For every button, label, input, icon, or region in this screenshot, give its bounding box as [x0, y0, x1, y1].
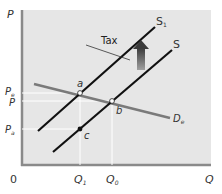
quantity-label-q0: Q0 — [106, 173, 119, 186]
point-a-label: a — [77, 78, 83, 89]
q0-main: Q — [106, 173, 115, 186]
point-c-label: c — [84, 130, 90, 141]
q1-sub: 1 — [83, 179, 87, 186]
point-c — [78, 127, 83, 132]
de-sub: e — [181, 118, 185, 125]
quantity-label-q1: Q1 — [74, 173, 87, 186]
s1-main: S — [156, 15, 163, 28]
x-axis-label: Q — [205, 173, 214, 186]
pa-sub: a — [11, 129, 15, 136]
price-label-p: P — [9, 97, 16, 108]
point-b-label: b — [116, 105, 122, 116]
supply-label: S — [173, 38, 180, 51]
s1-sub: 1 — [163, 21, 167, 28]
tax-diagram: P Q 0 Pe P Pa Q1 Q0 S1 S De a b c Tax — [0, 0, 222, 194]
origin-label: 0 — [10, 173, 17, 186]
price-label-pa: Pa — [5, 124, 15, 136]
y-axis-label: P — [7, 8, 14, 21]
q1-main: Q — [74, 173, 83, 186]
point-b — [110, 99, 115, 104]
tax-label: Tax — [100, 35, 118, 46]
point-a — [78, 91, 83, 96]
q0-sub: 0 — [115, 179, 119, 186]
